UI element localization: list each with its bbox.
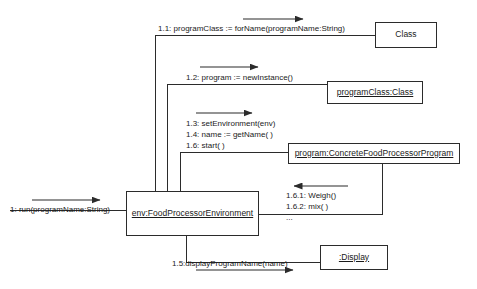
- object-box-program[interactable]: program:ConcreteFoodProcessorProgram: [288, 143, 460, 164]
- object-label-program: program:ConcreteFoodProcessorProgram: [294, 149, 455, 158]
- object-box-class[interactable]: Class: [375, 22, 437, 48]
- object-label-program-class: programClass:Class: [336, 88, 415, 97]
- message-label-1: 1: run(programName:String): [10, 204, 110, 215]
- message-label-1-1: 1.1: programClass := forName(programName…: [158, 23, 345, 34]
- message-1-5-line-0: 1.5:displayProgramName(name): [172, 258, 288, 269]
- link-env-to-class: [155, 35, 375, 196]
- link-env-to-program: [180, 152, 288, 196]
- object-box-display[interactable]: :Display: [320, 245, 388, 270]
- message-1-1-line-0: 1.1: programClass := forName(programName…: [158, 23, 345, 34]
- message-1-line-0: 1: run(programName:String): [10, 204, 110, 215]
- object-label-display: :Display: [338, 253, 370, 262]
- message-label-1-3-group: 1.3: setEnvironment(env) 1.4: name := ge…: [186, 118, 275, 151]
- message-1-3-line-0: 1.3: setEnvironment(env): [186, 118, 275, 129]
- message-1-6-1-line-1: 1.6.2: mix( ): [286, 201, 336, 212]
- message-1-2-line-0: 1.2: program := newInstance(): [186, 72, 293, 83]
- object-label-env: env:FoodProcessorEnvironment: [131, 209, 254, 218]
- message-1-6-1-line-0: 1.6.1: Weigh(): [286, 190, 336, 201]
- object-label-class: Class: [394, 30, 417, 39]
- message-1-6-1-line-2: ...: [286, 212, 336, 223]
- message-label-1-6-1-group: 1.6.1: Weigh() 1.6.2: mix( ) ...: [286, 190, 336, 223]
- message-label-1-2: 1.2: program := newInstance(): [186, 72, 293, 83]
- message-1-3-line-1: 1.4: name := getName( ): [186, 129, 275, 140]
- message-1-3-line-2: 1.6: start( ): [186, 140, 275, 151]
- object-box-program-class[interactable]: programClass:Class: [327, 81, 423, 104]
- message-label-1-5: 1.5:displayProgramName(name): [172, 258, 288, 269]
- uml-communication-diagram: Class programClass:Class program:Concret…: [0, 0, 477, 289]
- object-box-env[interactable]: env:FoodProcessorEnvironment: [126, 191, 259, 236]
